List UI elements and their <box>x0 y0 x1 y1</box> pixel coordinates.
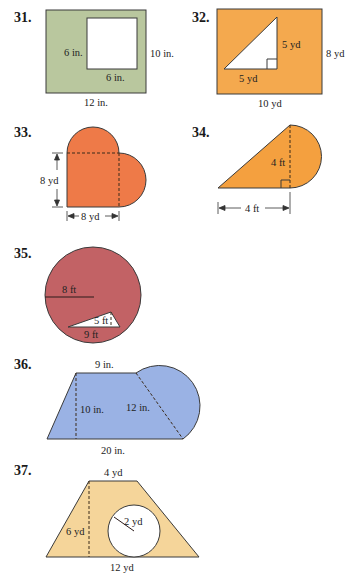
problem-number: 36. <box>14 357 32 372</box>
problem-37: 37. 4 yd 2 yd 6 yd 12 yd <box>14 463 199 573</box>
label-height: 10 in. <box>150 48 174 59</box>
problem-32: 32. 5 yd 5 yd 8 yd 10 yd <box>192 9 345 109</box>
label-width: 10 yd <box>258 98 282 109</box>
label-top: 4 yd <box>104 467 123 478</box>
triangle-with-semicircle <box>218 125 322 188</box>
label-height: 10 in. <box>80 404 104 415</box>
geometry-exercise-sheet: 31. 6 in. 6 in. 10 in. 12 in. 32. 5 yd 5… <box>0 0 355 576</box>
problem-33: 33. 8 yd 8 yd <box>14 125 146 222</box>
problem-number: 32. <box>192 10 210 25</box>
heart-shape <box>67 127 146 207</box>
problem-number: 35. <box>14 246 32 261</box>
label-radius: 8 ft <box>62 284 76 295</box>
trapezoid-with-semicircle <box>47 365 200 439</box>
label-width: 12 in. <box>84 97 108 108</box>
label-triangle-leg-horizontal: 5 yd <box>239 73 258 84</box>
label-height: 4 ft <box>271 157 285 168</box>
label-square-side-bottom: 6 in. <box>106 72 125 83</box>
label-bottom: 12 yd <box>110 562 134 573</box>
label-top: 9 in. <box>95 359 114 370</box>
problem-34: 34. 4 ft 4 ft <box>192 125 322 214</box>
label-width: 8 yd <box>81 211 100 222</box>
label-height: 6 yd <box>66 526 85 537</box>
problem-number: 31. <box>14 10 32 25</box>
label-triangle-height: 5 ft <box>94 315 108 326</box>
problem-35: 35. 8 ft 5 ft 9 ft <box>14 246 141 343</box>
label-height: 8 yd <box>40 175 59 186</box>
problem-36: 36. 9 in. 10 in. 12 in. 20 in. <box>14 357 200 456</box>
label-bottom: 20 in. <box>101 445 125 456</box>
label-slant-diameter: 12 in. <box>126 402 150 413</box>
problem-number: 34. <box>192 125 210 140</box>
label-triangle-base: 9 ft <box>84 329 98 340</box>
label-base: 4 ft <box>245 203 259 214</box>
problem-number: 33. <box>14 125 32 140</box>
label-square-side-left: 6 in. <box>64 47 83 58</box>
problem-31: 31. 6 in. 6 in. 10 in. 12 in. <box>14 10 174 108</box>
label-radius: 2 yd <box>124 516 143 527</box>
label-triangle-leg-vertical: 5 yd <box>282 39 301 50</box>
inner-square-cutout <box>87 18 137 69</box>
label-height: 8 yd <box>326 48 345 59</box>
problem-number: 37. <box>14 463 32 478</box>
